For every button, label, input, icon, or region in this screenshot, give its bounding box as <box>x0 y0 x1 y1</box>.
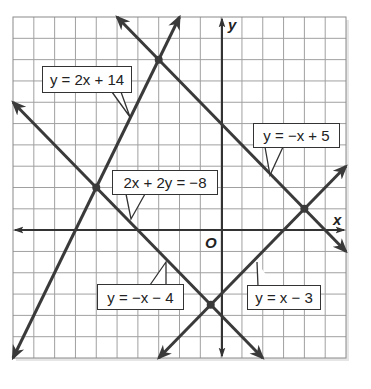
label-text: y = −x − 4 <box>107 289 173 306</box>
intersection-point <box>207 301 215 309</box>
label-text: y = 2x + 14 <box>50 71 124 88</box>
x-axis-label: x <box>333 211 341 228</box>
y-axis-label: y <box>228 16 236 33</box>
label-y-2x-plus-14: y = 2x + 14 <box>42 66 132 93</box>
intersection-point <box>155 56 163 64</box>
label-y-neg-x-minus-4: y = −x − 4 <box>97 284 184 310</box>
label-2x-2y-minus-8: 2x + 2y = −8 <box>112 170 218 195</box>
origin-label: O <box>205 234 217 251</box>
label-y-x-minus-3: y = x − 3 <box>247 285 321 310</box>
intersection-point <box>300 205 308 213</box>
intersection-point <box>92 184 100 192</box>
label-y-neg-x-plus-5: y = −x + 5 <box>253 123 340 148</box>
label-text: y = x − 3 <box>255 289 313 306</box>
label-text: y = −x + 5 <box>263 127 329 144</box>
label-text: 2x + 2y = −8 <box>124 174 207 191</box>
